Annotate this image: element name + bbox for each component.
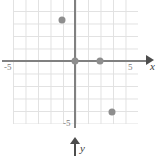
- coordinate-plane-figure: -5 5 -5 x y: [0, 0, 161, 164]
- x-axis-tick-label-max: 5: [128, 62, 133, 72]
- data-point: [97, 58, 104, 65]
- data-point: [59, 17, 66, 24]
- data-point: [109, 109, 116, 116]
- y-axis-label: y: [80, 142, 85, 154]
- y-axis-extension-line: [74, 143, 76, 156]
- y-axis-tick-label-min: -5: [63, 118, 71, 128]
- y-axis-arrow-icon: [70, 137, 80, 144]
- x-axis-tick-label-min: -5: [4, 62, 12, 72]
- data-point: [72, 58, 79, 65]
- x-axis-label: x: [150, 60, 155, 72]
